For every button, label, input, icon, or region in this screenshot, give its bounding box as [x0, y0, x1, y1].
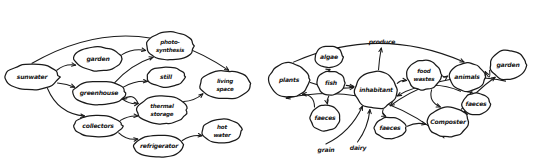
node-label-faeces_b: faeces [379, 124, 401, 131]
node-label-still: still [160, 73, 173, 80]
hand-drawn-diagram: sunwatergardenphoto-synthesisgreenhouses… [0, 0, 544, 168]
node-sunwater[interactable]: sunwater [5, 64, 60, 90]
node-collectors[interactable]: collectors [74, 115, 124, 136]
node-label-sunwater: sunwater [17, 73, 49, 80]
node-label-faeces_r: faeces [465, 100, 487, 107]
node-label-hotwater-line2: water [213, 132, 232, 138]
free-label-grain: grain [318, 146, 335, 154]
node-inhabitant[interactable]: inhabitant [354, 71, 397, 108]
node-greenhouse[interactable]: greenhouse [73, 82, 126, 105]
node-label-plants: plants [278, 76, 300, 84]
free-label-produce: produce [368, 38, 396, 46]
node-fish[interactable]: fish [317, 71, 345, 95]
node-label-garden_r: garden [496, 61, 519, 69]
node-garden[interactable]: garden [74, 47, 123, 71]
node-label-thermalstorage-line2: storage [151, 111, 174, 118]
node-livingspace[interactable]: livingspace [200, 71, 251, 99]
node-label-foodwastes-line1: food [417, 68, 432, 74]
node-still[interactable]: still [147, 67, 185, 87]
edges-layer [32, 36, 229, 141]
node-label-fish: fish [325, 79, 337, 86]
node-faeces_r[interactable]: faeces [462, 93, 491, 115]
food-and-nutrient-cycle-diagram: plantsalgaefishfaecesinhabitantfoodwaste… [268, 38, 526, 154]
energy-and-water-flow-diagram: sunwatergardenphoto-synthesisgreenhouses… [5, 32, 251, 157]
diagram-canvas: sunwatergardenphoto-synthesisgreenhouses… [0, 0, 544, 168]
node-animals[interactable]: animals [449, 63, 485, 92]
node-label-faeces_l: faeces [314, 114, 336, 121]
node-faeces_b[interactable]: faeces [374, 117, 406, 138]
node-label-livingspace-line2: space [216, 86, 234, 93]
node-photosynthesis[interactable]: photo-synthesis [147, 32, 195, 60]
node-refrigerator[interactable]: refrigerator [133, 135, 183, 157]
node-label-composter: Composter [430, 118, 467, 126]
node-label-thermalstorage-line1: thermal [150, 103, 174, 109]
node-composter[interactable]: Composter [427, 107, 468, 137]
node-label-garden: garden [86, 55, 109, 63]
node-label-photosynthesis-line2: synthesis [156, 47, 185, 54]
node-label-collectors: collectors [82, 122, 114, 129]
node-label-refrigerator: refrigerator [140, 142, 179, 150]
node-faeces_l[interactable]: faeces [310, 105, 340, 131]
node-label-algae: algae [320, 53, 338, 61]
node-label-animals: animals [454, 73, 480, 80]
node-algae[interactable]: algae [315, 46, 343, 67]
node-garden_r[interactable]: garden [490, 50, 527, 79]
node-label-livingspace-line1: living [217, 78, 233, 85]
node-label-greenhouse: greenhouse [80, 89, 119, 97]
node-label-foodwastes-line2: wastes [414, 76, 436, 82]
node-label-hotwater-line1: hot [217, 124, 227, 130]
node-label-photosynthesis-line1: photo- [159, 39, 180, 46]
free-label-dairy: dairy [350, 144, 368, 152]
node-plants[interactable]: plants [268, 62, 309, 96]
node-label-inhabitant: inhabitant [359, 86, 394, 93]
node-hotwater[interactable]: hotwater [202, 119, 242, 143]
node-thermalstorage[interactable]: thermalstorage [137, 96, 188, 124]
